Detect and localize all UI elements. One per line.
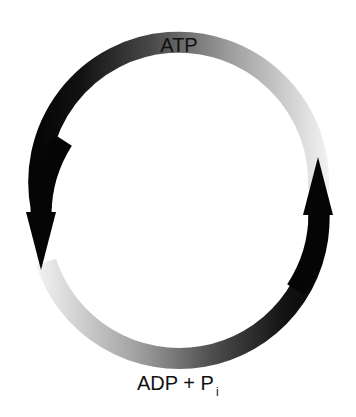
upper-arc: [39, 42, 319, 210]
pi-subscript: i: [216, 385, 219, 399]
atp-label: ATP: [160, 34, 197, 56]
adp-pi-label: ADP + Pi: [137, 372, 219, 399]
atp-cycle-diagram: ATP ADP + Pi: [0, 0, 356, 417]
adp-pi-main: ADP + P: [137, 372, 214, 394]
lower-arc: [46, 214, 319, 359]
